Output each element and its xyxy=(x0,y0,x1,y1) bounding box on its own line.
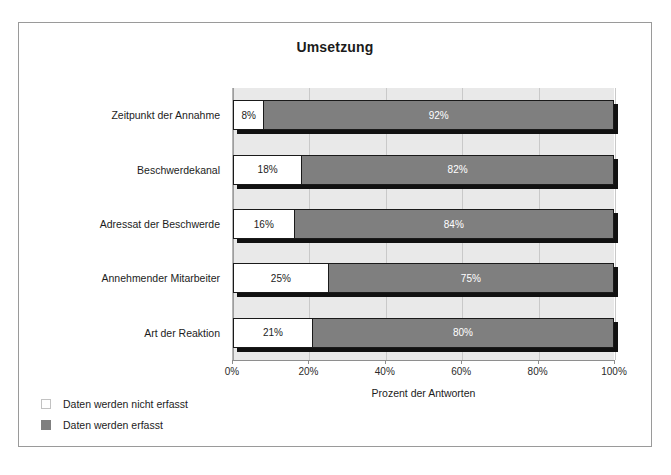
x-tick-label: 80% xyxy=(528,366,548,377)
stacked-bar: 16%84% xyxy=(233,209,614,239)
category-label: Zeitpunkt der Annahme xyxy=(30,100,220,130)
category-axis: Zeitpunkt der AnnahmeBeschwerdekanalAdre… xyxy=(22,88,220,360)
x-axis-title: Prozent der Antworten xyxy=(232,387,615,399)
stacked-bar: 25%75% xyxy=(233,263,614,293)
x-tick-mark xyxy=(308,360,309,364)
x-tick-label: 40% xyxy=(375,366,395,377)
legend-item: Daten werden erfasst xyxy=(41,414,188,435)
plot-area: 8%92%18%82%16%84%25%75%21%80% xyxy=(232,88,614,360)
bar-segment-erfasst: 82% xyxy=(302,156,613,184)
x-tick-mark xyxy=(538,360,539,364)
bar-segment-not-erfasst: 18% xyxy=(234,156,302,184)
legend-label: Daten werden erfasst xyxy=(63,419,163,431)
legend-item: Daten werden nicht erfasst xyxy=(41,393,188,414)
x-tick-mark xyxy=(232,360,233,364)
x-axis-line xyxy=(232,360,615,361)
x-tick-label: 0% xyxy=(225,366,239,377)
bar-segment-not-erfasst: 21% xyxy=(234,319,313,347)
gridline xyxy=(615,88,616,360)
stacked-bar: 21%80% xyxy=(233,318,614,348)
chart-legend: Daten werden nicht erfasstDaten werden e… xyxy=(41,393,188,435)
bar-row: 16%84% xyxy=(233,209,614,239)
chart-frame: Umsetzung Zeitpunkt der AnnahmeBeschwerd… xyxy=(18,22,652,447)
legend-swatch xyxy=(41,420,51,430)
bar-segment-erfasst: 92% xyxy=(264,101,613,129)
bar-row: 18%82% xyxy=(233,155,614,185)
x-tick-label: 100% xyxy=(601,366,627,377)
x-tick-label: 20% xyxy=(298,366,318,377)
bar-segment-erfasst: 84% xyxy=(295,210,613,238)
stacked-bar: 18%82% xyxy=(233,155,614,185)
bar-row: 21%80% xyxy=(233,318,614,348)
bar-row: 25%75% xyxy=(233,263,614,293)
bar-segment-not-erfasst: 25% xyxy=(234,264,329,292)
x-tick-mark xyxy=(385,360,386,364)
bar-segment-erfasst: 75% xyxy=(329,264,613,292)
x-tick-mark xyxy=(461,360,462,364)
legend-swatch xyxy=(41,399,51,409)
category-label: Adressat der Beschwerde xyxy=(30,209,220,239)
bar-segment-not-erfasst: 8% xyxy=(234,101,264,129)
bar-segment-erfasst: 80% xyxy=(313,319,613,347)
stacked-bar: 8%92% xyxy=(233,100,614,130)
x-tick-mark xyxy=(614,360,615,364)
bar-row: 8%92% xyxy=(233,100,614,130)
legend-label: Daten werden nicht erfasst xyxy=(63,398,188,410)
chart-title: Umsetzung xyxy=(19,39,651,55)
category-label: Art der Reaktion xyxy=(30,318,220,348)
x-tick-label: 60% xyxy=(451,366,471,377)
category-label: Beschwerdekanal xyxy=(30,155,220,185)
bar-segment-not-erfasst: 16% xyxy=(234,210,295,238)
category-label: Annehmender Mitarbeiter xyxy=(30,263,220,293)
